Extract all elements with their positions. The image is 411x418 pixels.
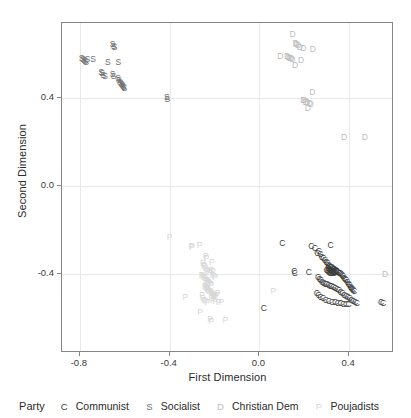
data-point-s: S (90, 55, 96, 64)
legend-label: Communist (76, 400, 129, 412)
legend-label: Christian Dem (232, 400, 299, 412)
data-point-s: S (112, 43, 118, 52)
x-tick-mark-0 (79, 352, 80, 356)
data-point-d: D (305, 103, 311, 112)
x-tick-label-0: -0.8 (59, 357, 99, 368)
legend-label: Poujadists (330, 400, 378, 412)
data-point-s: S (105, 57, 111, 66)
y-tick-label-0: 0.4 (10, 91, 54, 102)
data-point-d: D (298, 56, 304, 65)
data-point-c: C (380, 298, 386, 307)
data-point-d: D (382, 270, 388, 279)
x-tick-label-2: 0.0 (238, 357, 278, 368)
scatter-plot-figure: Second Dimension 0.40.0-0.4 CCCCCCCCCCCC… (0, 0, 411, 418)
legend-key-glyph-s: S (142, 401, 157, 412)
data-point-d: D (292, 61, 298, 70)
legend-key-glyph-d: D (213, 401, 228, 412)
legend: Party CCommunistSSocialistDChristian Dem… (0, 394, 411, 418)
data-point-p: P (197, 308, 203, 317)
gridline-horizontal-1 (62, 186, 392, 187)
data-point-c: C (346, 300, 352, 309)
legend-entry-christian-dem[interactable]: DChristian Dem (213, 400, 299, 412)
legend-entry-socialist[interactable]: SSocialist (142, 400, 200, 412)
legend-entry-communist[interactable]: CCommunist (57, 400, 129, 412)
data-point-p: P (209, 317, 215, 326)
data-point-p: P (167, 233, 173, 242)
data-point-p: P (183, 292, 189, 301)
data-point-c: C (354, 299, 360, 308)
gridline-vertical-1 (170, 23, 171, 351)
data-point-c: C (279, 239, 285, 248)
data-point-p: P (189, 242, 195, 251)
data-point-c: C (306, 268, 312, 277)
data-point-p: P (197, 241, 203, 250)
y-tick-label-1: 0.0 (10, 179, 54, 190)
x-tick-mark-1 (169, 352, 170, 356)
data-point-c: C (327, 241, 333, 250)
data-point-d: D (362, 133, 368, 142)
data-point-p: P (218, 298, 224, 307)
data-point-d: D (310, 45, 316, 54)
x-tick-label-1: -0.4 (149, 357, 189, 368)
data-point-s: S (115, 58, 121, 67)
data-point-s: S (102, 72, 108, 81)
legend-key-glyph-c: C (57, 401, 72, 412)
legend-label: Socialist (161, 400, 200, 412)
data-point-d: D (341, 133, 347, 142)
x-tick-label-3: 0.4 (328, 357, 368, 368)
legend-key-glyph-p: P (311, 401, 326, 412)
legend-entry-poujadists[interactable]: PPoujadists (311, 400, 378, 412)
x-tick-mark-3 (348, 352, 349, 356)
data-point-d: D (300, 44, 306, 53)
gridline-horizontal-0 (62, 98, 392, 99)
gridline-vertical-0 (80, 23, 81, 351)
legend-title: Party (19, 400, 45, 412)
data-point-d: D (309, 88, 315, 97)
x-tick-mark-2 (258, 352, 259, 356)
data-point-c: C (292, 269, 298, 278)
data-point-p: P (270, 287, 276, 296)
x-axis-title: First Dimension (61, 371, 394, 383)
data-point-c: C (261, 304, 267, 313)
data-point-s: S (122, 84, 128, 93)
data-point-p: P (213, 272, 219, 281)
plot-panel: CCCCCCCCCCCCCCCCCCCCCCCCCCCCCCCCCCCCCCCC… (61, 22, 393, 352)
y-tick-label-2: -0.4 (10, 267, 54, 278)
data-point-s: S (165, 94, 171, 103)
data-point-d: D (277, 52, 283, 61)
data-point-p: P (222, 316, 228, 325)
